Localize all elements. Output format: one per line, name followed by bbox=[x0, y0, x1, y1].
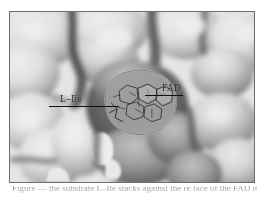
molecular-surface-panel: L–Ile FAD bbox=[9, 11, 255, 183]
molecular-surface-image bbox=[10, 12, 254, 182]
caption-crop-fade bbox=[0, 186, 263, 200]
figure-caption: Figure — the substrate L–Ile stacks agai… bbox=[0, 186, 263, 200]
figure-root: L–Ile FAD Figure — the substrate L–Ile s… bbox=[0, 0, 263, 200]
